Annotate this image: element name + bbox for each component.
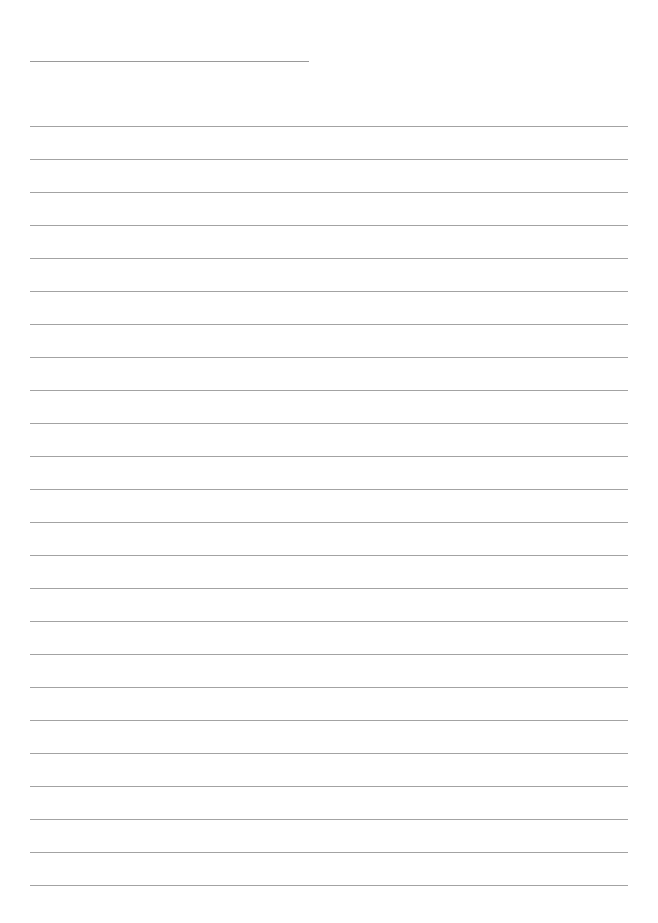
ruled-line	[30, 324, 628, 325]
ruled-line	[30, 786, 628, 787]
ruled-line	[30, 852, 628, 853]
ruled-line	[30, 819, 628, 820]
ruled-line	[30, 126, 628, 127]
ruled-line	[30, 258, 628, 259]
title-line	[30, 61, 309, 62]
ruled-line	[30, 390, 628, 391]
ruled-line	[30, 621, 628, 622]
ruled-line	[30, 588, 628, 589]
ruled-line	[30, 654, 628, 655]
ruled-line	[30, 489, 628, 490]
ruled-line	[30, 192, 628, 193]
ruled-line	[30, 885, 628, 886]
ruled-line	[30, 225, 628, 226]
ruled-line	[30, 687, 628, 688]
ruled-line	[30, 159, 628, 160]
ruled-line	[30, 720, 628, 721]
ruled-line	[30, 456, 628, 457]
ruled-line	[30, 423, 628, 424]
ruled-line	[30, 291, 628, 292]
ruled-line	[30, 522, 628, 523]
ruled-line	[30, 357, 628, 358]
ruled-line	[30, 753, 628, 754]
ruled-line	[30, 555, 628, 556]
